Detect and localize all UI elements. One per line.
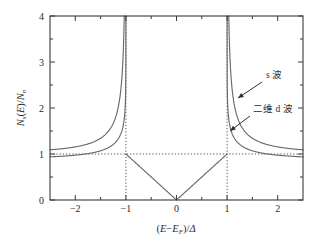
annotation-label-d-wave: 二维 d 波	[253, 103, 293, 114]
x-axis-title: (E−EF)/Δ	[156, 223, 195, 236]
x-title-delta: Δ	[188, 223, 195, 234]
x-tick-label: 2	[275, 203, 280, 214]
y-tick-label: 4	[39, 11, 44, 22]
annotation-label-s-wave: s 波	[266, 69, 282, 80]
curve-d-wave-left	[50, 16, 126, 157]
x-tick-label: −2	[70, 203, 81, 214]
figure-container: −2−101201234 s 波二维 d 波 (E−EF)/Δ Ns(E)/Nn	[0, 0, 328, 247]
annotation-arrowhead-s-wave	[238, 93, 244, 98]
y-axis-title: Ns(E)/Nn	[15, 89, 28, 127]
density-of-states-chart: −2−101201234 s 波二维 d 波 (E−EF)/Δ Ns(E)/Nn	[0, 0, 328, 247]
y-tick-label: 3	[39, 57, 44, 68]
x-tick-label: 1	[225, 203, 230, 214]
curve-s-wave	[229, 16, 303, 150]
y-tick-label: 1	[39, 149, 44, 160]
x-tick-label: −1	[121, 203, 132, 214]
y-title-n2-sub: n	[20, 89, 28, 93]
y-tick-label: 2	[39, 103, 44, 114]
curve-s-wave	[50, 16, 124, 150]
y-tick-label: 0	[39, 195, 44, 206]
chart-tick-labels: −2−101201234	[39, 11, 280, 215]
curve-d-wave-gap	[126, 154, 227, 200]
curve-d-wave-right	[227, 16, 303, 157]
svg-text:(E−EF)/Δ: (E−EF)/Δ	[156, 223, 195, 236]
x-tick-label: 0	[174, 203, 179, 214]
svg-text:Ns(E)/Nn: Ns(E)/Nn	[15, 89, 28, 127]
